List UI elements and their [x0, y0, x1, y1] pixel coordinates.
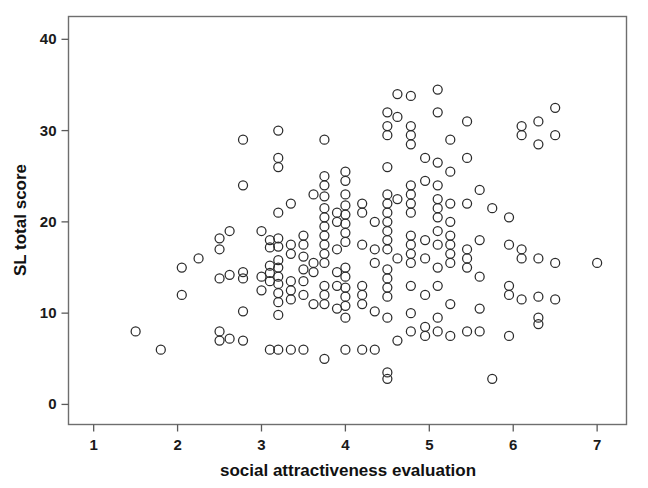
x-tick-label: 1: [90, 436, 98, 453]
plot-frame: [69, 17, 627, 425]
x-tick-label: 3: [257, 436, 265, 453]
y-tick-label: 10: [40, 304, 57, 321]
y-axis-title: SL total score: [11, 164, 30, 276]
x-tick-label: 6: [509, 436, 517, 453]
x-tick-label: 4: [341, 436, 350, 453]
x-tick-label: 7: [593, 436, 601, 453]
y-tick-label: 40: [40, 30, 57, 47]
y-tick-label: 20: [40, 213, 57, 230]
x-tick-label: 2: [173, 436, 181, 453]
y-tick-label: 0: [48, 395, 56, 412]
y-tick-label: 30: [40, 122, 57, 139]
scatter-plot-figure: 010203040 1234567 SL total score social …: [0, 0, 648, 488]
x-axis-title: social attractiveness evaluation: [220, 461, 476, 480]
x-tick-label: 5: [425, 436, 433, 453]
plot-svg: 010203040 1234567 SL total score social …: [0, 0, 648, 488]
